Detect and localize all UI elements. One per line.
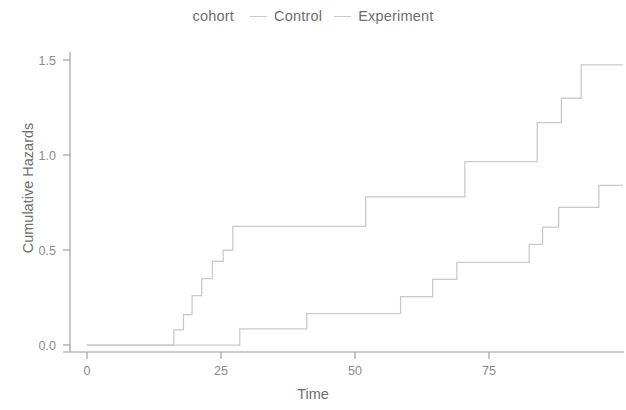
series-line-experiment (87, 185, 623, 345)
x-tick-label: 25 (214, 364, 228, 378)
x-tick-label: 0 (84, 364, 91, 378)
x-axis-title: Time (0, 386, 626, 402)
y-tick-group: 0.00.51.01.5 (39, 54, 70, 353)
x-tick-label: 50 (348, 364, 362, 378)
plot-area: 0.00.51.01.5 0255075 (0, 0, 626, 410)
x-tick-group: 0255075 (84, 352, 496, 378)
series-line-control (87, 65, 623, 345)
cumulative-hazard-chart: cohort Control Experiment 0.00.51.01.5 0… (0, 0, 626, 410)
y-axis-title: Cumulative Hazards (20, 88, 36, 288)
y-tick-label: 1.0 (39, 149, 56, 163)
plot-svg: 0.00.51.01.5 0255075 (0, 0, 626, 410)
x-tick-label: 75 (482, 364, 496, 378)
y-tick-label: 1.5 (39, 54, 56, 68)
y-tick-label: 0.0 (39, 339, 56, 353)
y-tick-label: 0.5 (39, 244, 56, 258)
